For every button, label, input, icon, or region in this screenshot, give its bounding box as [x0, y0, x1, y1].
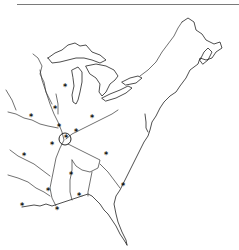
asterisk-marker-icon: *: [22, 153, 26, 161]
asterisk-marker-icon: *: [57, 124, 61, 132]
tennessee-river: [68, 144, 100, 172]
asterisk-marker-icon: *: [77, 193, 81, 201]
asterisk-marker-icon: *: [121, 183, 125, 191]
atlantic-coast: [114, 18, 222, 245]
asterisk-marker-icon: *: [53, 106, 57, 114]
st-lawrence: [140, 22, 182, 76]
lake-huron: [86, 64, 118, 96]
alabama-river: [70, 160, 72, 200]
asterisk-marker-icon: *: [50, 142, 54, 150]
asterisk-marker-icon: *: [46, 188, 50, 196]
mississippi-river: [40, 70, 64, 206]
northern-border: [33, 54, 52, 104]
lake-ontario: [122, 76, 142, 85]
lake-michigan: [72, 67, 82, 104]
asterisk-marker-icon: *: [29, 114, 33, 122]
map-outline: [0, 0, 239, 250]
chattahoochee-river: [88, 172, 92, 196]
red-river: [8, 175, 50, 196]
arkansas-river: [10, 150, 50, 176]
western-river: [6, 90, 16, 110]
asterisk-marker-icon: *: [63, 84, 67, 92]
nova-scotia: [200, 48, 212, 64]
asterisk-marker-icon: *: [20, 203, 24, 211]
florida: [82, 194, 127, 245]
asterisk-marker-icon: *: [104, 152, 108, 160]
lake-erie: [102, 86, 132, 101]
asterisk-marker-icon: *: [69, 172, 73, 180]
savannah-river: [100, 164, 120, 188]
lake-superior: [48, 43, 106, 63]
asterisk-marker-icon: *: [90, 115, 94, 123]
asterisk-marker-icon: *: [55, 207, 59, 215]
asterisk-marker-icon: *: [74, 129, 78, 137]
asterisk-marker-icon: *: [64, 135, 68, 143]
chesapeake: [145, 114, 148, 132]
